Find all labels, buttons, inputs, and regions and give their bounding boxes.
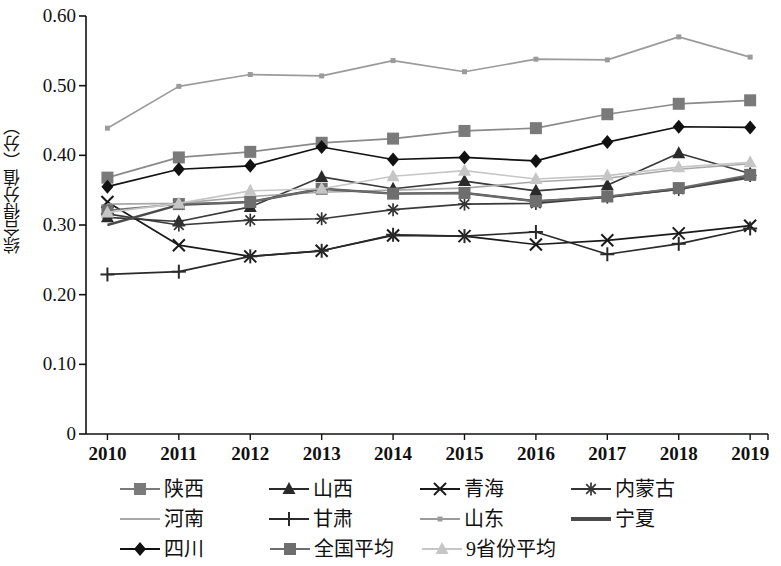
legend-item-陕西[interactable]: 陕西 [118, 474, 267, 504]
legend-marker-icon [118, 538, 162, 560]
legend-item-9省份平均[interactable]: 9省份平均 [420, 534, 572, 564]
line-chart-figure: 综合得分值（分） 0.600.500.400.300.200.100 20102… [0, 0, 781, 566]
legend-marker-icon [268, 538, 312, 560]
legend-item-青海[interactable]: 青海 [418, 474, 569, 504]
legend-label: 山东 [462, 508, 504, 530]
legend-row: 河南甘肃山东宁夏 [118, 504, 718, 534]
legend-item-河南[interactable]: 河南 [118, 504, 267, 534]
series-6 [105, 34, 753, 130]
x-tick-label: 2015 [434, 444, 494, 463]
legend-row: 四川全国平均9省份平均 [118, 534, 718, 564]
plot-svg [0, 0, 781, 470]
x-tick-label: 2014 [363, 444, 423, 463]
legend-row: 陕西山西青海内蒙古 [118, 474, 718, 504]
x-axis-ticks [107, 434, 768, 440]
legend-item-四川[interactable]: 四川 [118, 534, 268, 564]
legend-item-全国平均[interactable]: 全国平均 [268, 534, 420, 564]
legend-marker-icon [418, 478, 462, 500]
legend-label: 甘肃 [311, 508, 353, 530]
series-10 [101, 155, 757, 217]
plot-area [0, 0, 781, 470]
x-tick-label: 2010 [77, 444, 137, 463]
series-2 [101, 196, 756, 262]
legend-marker-icon [267, 478, 311, 500]
series-9 [101, 169, 756, 217]
legend-item-宁夏[interactable]: 宁夏 [569, 504, 718, 534]
x-tick-label: 2011 [149, 444, 209, 463]
legend-item-内蒙古[interactable]: 内蒙古 [569, 474, 718, 504]
legend-label: 9省份平均 [464, 538, 556, 560]
series-layer [100, 34, 757, 281]
x-tick-label: 2019 [720, 444, 780, 463]
x-tick-label: 2017 [577, 444, 637, 463]
y-tick-label: 0.30 [20, 215, 76, 234]
series-8 [101, 120, 756, 194]
y-axis-ticks [79, 16, 86, 434]
x-tick-label: 2013 [292, 444, 352, 463]
y-tick-label: 0.10 [20, 354, 76, 373]
legend-marker-icon [267, 508, 311, 530]
legend-marker-icon [569, 508, 613, 530]
legend-marker-icon [418, 508, 462, 530]
legend-label: 青海 [462, 478, 504, 500]
legend-marker-icon [118, 478, 162, 500]
x-tick-label: 2012 [220, 444, 280, 463]
legend-label: 内蒙古 [613, 478, 675, 500]
chart-legend: 陕西山西青海内蒙古河南甘肃山东宁夏四川全国平均9省份平均 [118, 474, 718, 566]
y-tick-label: 0.50 [20, 76, 76, 95]
legend-label: 宁夏 [613, 508, 655, 530]
y-tick-label: 0.40 [20, 145, 76, 164]
legend-label: 河南 [162, 508, 204, 530]
legend-label: 山西 [311, 478, 353, 500]
legend-marker-icon [420, 538, 464, 560]
x-tick-label: 2018 [649, 444, 709, 463]
series-5 [100, 221, 757, 281]
legend-marker-icon [569, 478, 613, 500]
legend-item-山东[interactable]: 山东 [418, 504, 569, 534]
legend-marker-icon [118, 508, 162, 530]
legend-label: 全国平均 [312, 538, 394, 560]
x-tick-label: 2016 [506, 444, 566, 463]
y-tick-label: 0.20 [20, 285, 76, 304]
legend-item-山西[interactable]: 山西 [267, 474, 418, 504]
legend-label: 陕西 [162, 478, 204, 500]
y-tick-label: 0 [20, 424, 76, 443]
legend-label: 四川 [162, 538, 204, 560]
y-tick-label: 0.60 [20, 6, 76, 25]
legend-item-甘肃[interactable]: 甘肃 [267, 504, 418, 534]
